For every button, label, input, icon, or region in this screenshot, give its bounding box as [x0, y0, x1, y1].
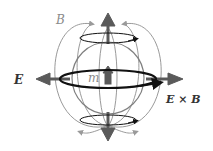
vertical-arrows [101, 13, 115, 141]
label-m: m [88, 72, 99, 84]
magnetic-moment-arrow [105, 72, 111, 84]
label-E: E [14, 74, 23, 86]
diagram-canvas [0, 0, 213, 151]
label-E-cross-B: E × B [166, 94, 201, 106]
label-B: B [56, 14, 65, 26]
